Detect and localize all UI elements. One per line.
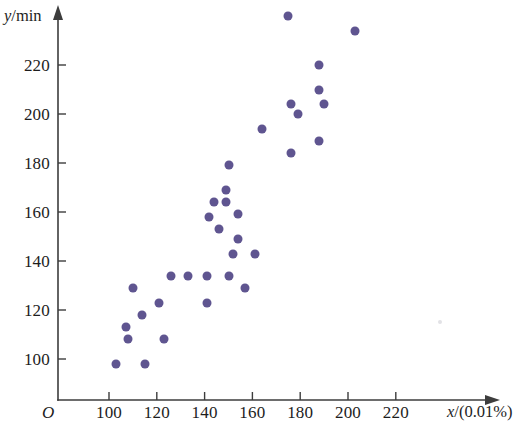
x-tick-label: 200 [323, 404, 373, 421]
data-point [351, 26, 360, 35]
data-point [140, 359, 149, 368]
data-point [286, 149, 295, 158]
data-point [159, 335, 168, 344]
y-axis-group [53, 5, 63, 400]
data-point [205, 212, 214, 221]
y-axis-title-unit: /min [11, 6, 41, 25]
x-tick-label: 100 [84, 404, 134, 421]
data-point [286, 100, 295, 109]
data-point [250, 249, 259, 258]
data-point [202, 298, 211, 307]
x-tick-label: 220 [371, 404, 421, 421]
data-point [222, 185, 231, 194]
y-tick-label: 200 [0, 106, 50, 123]
faint-speck [438, 320, 442, 324]
data-point [284, 12, 293, 21]
y-tick-label: 220 [0, 57, 50, 74]
data-point [222, 198, 231, 207]
data-point [315, 85, 324, 94]
y-tick-label: 120 [0, 302, 50, 319]
origin-label: O [42, 404, 54, 421]
data-point [224, 161, 233, 170]
data-point [229, 249, 238, 258]
x-tick-label: 140 [180, 404, 230, 421]
plot-surface: y/min x/(0.01%) O 1001201401601802002201… [0, 0, 523, 435]
data-point [183, 271, 192, 280]
data-point [224, 271, 233, 280]
data-point [138, 310, 147, 319]
scatter-plot-figure: y/min x/(0.01%) O 1001201401601802002201… [0, 0, 523, 435]
data-point [121, 323, 130, 332]
data-point [202, 271, 211, 280]
data-point [257, 124, 266, 133]
data-point [315, 61, 324, 70]
x-axis-ticks [109, 392, 396, 400]
data-point [234, 234, 243, 243]
y-axis-ticks [58, 65, 66, 359]
data-point [112, 359, 121, 368]
data-point [155, 298, 164, 307]
y-tick-label: 180 [0, 155, 50, 172]
data-point [320, 100, 329, 109]
x-axis-title: x/(0.01%) [447, 404, 513, 421]
data-point [128, 283, 137, 292]
x-axis-title-unit: /(0.01%) [454, 402, 512, 421]
x-tick-label: 120 [132, 404, 182, 421]
data-point [214, 225, 223, 234]
axes-layer [0, 0, 523, 435]
data-point [124, 335, 133, 344]
data-point [167, 271, 176, 280]
y-tick-label: 160 [0, 204, 50, 221]
x-tick-label: 180 [275, 404, 325, 421]
data-point [234, 210, 243, 219]
data-point [293, 110, 302, 119]
y-axis-arrowhead [53, 5, 63, 20]
y-tick-label: 100 [0, 351, 50, 368]
y-axis-title: y/min [4, 8, 42, 25]
x-tick-label: 160 [227, 404, 277, 421]
data-point [241, 283, 250, 292]
data-point [210, 198, 219, 207]
data-point [315, 136, 324, 145]
y-tick-label: 140 [0, 253, 50, 270]
